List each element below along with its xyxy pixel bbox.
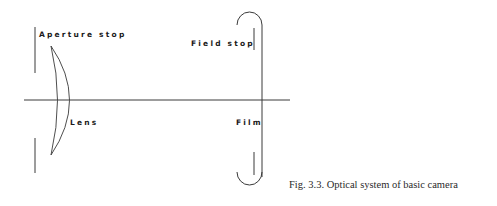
aperture-stop-label: Aperture stop (39, 30, 126, 39)
field-stop-label: Field stop (191, 39, 255, 48)
figure-caption: Fig. 3.3. Optical system of basic camera (289, 179, 458, 190)
film-label: Film (236, 118, 263, 127)
film-assembly (237, 12, 262, 185)
film-bottom-spool-arc (237, 172, 262, 185)
lens-label: Lens (70, 118, 98, 127)
optical-system-diagram: Aperture stop Field stop Lens Film Fig. … (0, 0, 497, 206)
film-top-spool-arc (237, 12, 262, 25)
